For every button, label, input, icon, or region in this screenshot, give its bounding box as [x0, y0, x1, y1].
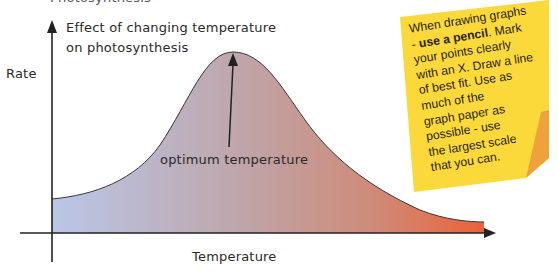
chart-title-line-2: on photosynthesis	[66, 38, 276, 58]
chart-title: Effect of changing temperature on photos…	[66, 18, 276, 58]
sticky-note-text: When drawing graphs - use a pencil. Mark…	[408, 0, 558, 176]
optimum-annotation: optimum temperature	[160, 152, 308, 167]
chart-title-line-1: Effect of changing temperature	[66, 18, 276, 38]
y-axis-label: Rate	[6, 66, 37, 81]
header-fragment: Photosynthesis	[50, 0, 151, 5]
y-axis-arrow-icon	[47, 20, 57, 33]
x-axis-label: Temperature	[192, 249, 277, 264]
x-axis-arrow-icon	[484, 228, 496, 238]
